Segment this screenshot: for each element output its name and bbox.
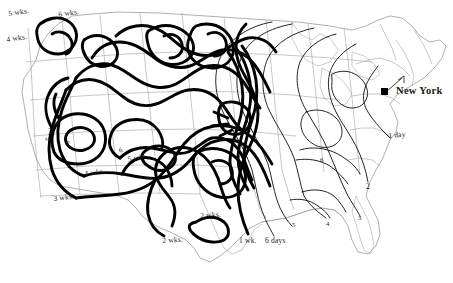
contour-label-l_6_ky: 6 (320, 157, 324, 164)
contour-label-l_3wks_sw: 3 wks. (53, 193, 74, 203)
contour-label-l_2_se: 2 (366, 183, 370, 191)
contour-label-l_2wks_tx_w: 2 wks. (162, 236, 183, 245)
contour-6-wks-d (116, 25, 276, 55)
contour-3-days (297, 34, 360, 216)
contour-label-l_5_gulf: 5 (292, 222, 296, 229)
contour-label-l_1wk: 1 wk. (239, 237, 257, 245)
contour-label-l_1day: 1 day (388, 131, 406, 140)
contour-1-day (363, 66, 390, 138)
contour-2-wks (189, 218, 228, 243)
contour-5-wks-loop-b (65, 127, 94, 150)
new-york-label: New York (396, 86, 443, 97)
contour-label-l_2wks_ok: 2 wks. (200, 211, 221, 220)
isochrones-thick (37, 18, 276, 242)
contour-label-l_4_gulf: 4 (326, 221, 330, 228)
isochrone-map: New York 5 wks.6 wks.4 wks.5 wks.64 wks.… (0, 0, 453, 283)
contour-label-l_6days: 6 days (265, 237, 286, 245)
contour-label-l_3_se: 3 (358, 215, 362, 222)
new-york-marker (381, 88, 388, 95)
